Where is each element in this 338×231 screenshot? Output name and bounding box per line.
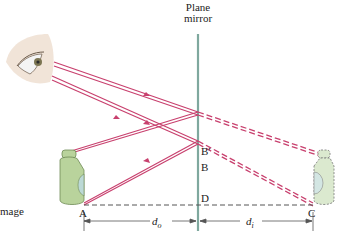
- point-c: C: [308, 208, 315, 219]
- point-b-prime: B′: [201, 146, 211, 157]
- image-bottle: [314, 150, 334, 205]
- distance-object: do: [152, 216, 162, 231]
- distance-image-subscript: i: [252, 221, 254, 230]
- virtual-rays: [198, 112, 320, 206]
- diagram-canvas: [0, 0, 338, 231]
- side-label: mage: [0, 206, 24, 217]
- mirror-label-line2: mirror: [178, 13, 218, 24]
- ray-arrow-icons: [113, 92, 150, 163]
- point-a: A: [79, 208, 87, 219]
- object-bottle: [60, 150, 84, 205]
- distance-image: di: [246, 216, 254, 231]
- point-d: D: [201, 193, 209, 204]
- eye-icon: [6, 34, 54, 83]
- mirror-label: Plane mirror: [178, 2, 218, 24]
- distance-object-subscript: o: [158, 221, 162, 230]
- point-b: B: [201, 162, 208, 173]
